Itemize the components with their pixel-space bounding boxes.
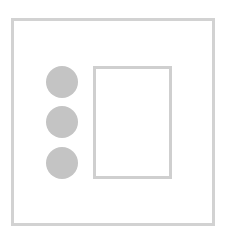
circle-button-1 [46,66,78,98]
inner-rectangle [93,66,172,179]
circle-button-2 [46,106,78,138]
circle-button-3 [46,147,78,179]
